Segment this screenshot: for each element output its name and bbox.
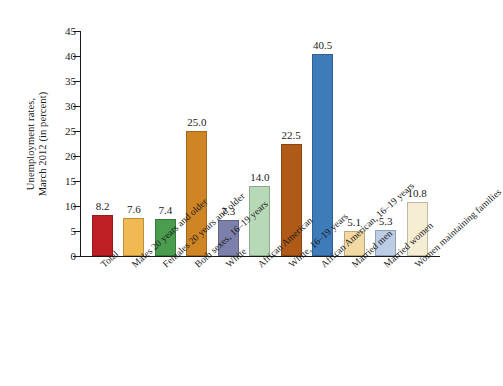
y-tick-label: 0	[71, 251, 81, 262]
bar	[375, 230, 396, 257]
y-tick-label: 5	[71, 226, 81, 237]
bar	[218, 220, 239, 257]
bar	[249, 186, 270, 256]
bar	[123, 218, 144, 256]
bar-value-label: 14.0	[250, 172, 269, 183]
y-axis-title-line-2: March 2012 (in percent)	[37, 31, 49, 257]
y-tick-label: 10	[65, 201, 80, 212]
bar-value-label: 5.1	[347, 217, 361, 228]
bar-group: 7.4	[155, 31, 176, 256]
bar-group: 5.1	[344, 31, 365, 256]
bar	[407, 202, 428, 256]
bar-value-label: 25.0	[187, 117, 206, 128]
bar-group: 22.5	[281, 31, 302, 256]
bars-layer: 8.27.67.425.07.314.022.540.55.15.310.8	[80, 31, 440, 256]
bar-value-label: 22.5	[282, 130, 301, 141]
y-tick-label: 30	[65, 101, 80, 112]
y-tick-label: 20	[65, 151, 80, 162]
bar-group: 10.8	[407, 31, 428, 256]
x-axis-line	[80, 256, 440, 257]
bar-value-label: 7.3	[221, 206, 235, 217]
bar	[281, 144, 302, 257]
y-tick-label: 45	[65, 26, 80, 37]
bar-group: 7.3	[218, 31, 239, 256]
bar-group: 5.3	[375, 31, 396, 256]
bar	[155, 219, 176, 256]
bar-group: 7.6	[123, 31, 144, 256]
bar-group: 40.5	[312, 31, 333, 256]
y-tick-label: 40	[65, 51, 80, 62]
y-axis-title: Unemployment rates, March 2012 (in perce…	[20, 0, 54, 31]
bar	[344, 231, 365, 257]
y-tick-label: 15	[65, 176, 80, 187]
bar-group: 25.0	[186, 31, 207, 256]
bar-group: 14.0	[249, 31, 270, 256]
plot-area: 051015202530354045 8.27.67.425.07.314.02…	[80, 31, 440, 256]
bar-value-label: 5.3	[379, 216, 393, 227]
bar	[92, 215, 113, 256]
y-tick-label: 25	[65, 126, 80, 137]
bar-value-label: 7.6	[127, 204, 141, 215]
y-axis-title-line-1: Unemployment rates,	[25, 31, 37, 257]
bar-group: 8.2	[92, 31, 113, 256]
bar-value-label: 7.4	[159, 205, 173, 216]
bar	[186, 131, 207, 256]
bar-value-label: 40.5	[313, 40, 332, 51]
bar	[312, 54, 333, 257]
y-tick-label: 35	[65, 76, 80, 87]
bar-value-label: 8.2	[96, 201, 110, 212]
bar-value-label: 10.8	[407, 188, 426, 199]
